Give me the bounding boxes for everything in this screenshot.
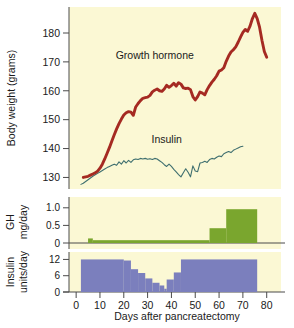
insulin-dose-bar-3 [138,273,145,292]
y-tick-label-150: 150 [42,113,60,125]
insulin-tick-label-12: 12 [49,254,61,265]
gh-dose-bar-0 [88,238,93,243]
gh-tick-label-0-5: 0.5 [46,220,60,231]
y-tick-label-170: 170 [42,56,60,68]
gh-tick-label-0: 0 [54,238,60,249]
insulin-dose-bar-10 [181,259,257,292]
insulin-tick-label-0: 0 [54,287,60,298]
y-tick-label-180: 180 [42,27,60,39]
insulin-tick-label-6: 6 [54,270,60,281]
insulin-dose-bar-1 [124,261,131,292]
y-tick-label-130: 130 [42,171,60,183]
insulin-dose-bar-5 [152,283,159,292]
chart-figure: 130140150160170180 Body weight (grams) G… [0,0,294,328]
x-tick-label-10: 10 [94,299,106,311]
annotation-insulin: Insulin [151,133,182,145]
insulin-axis-title-line2: units/day [17,250,29,293]
annotation-growth-hormone: Growth hormone [116,49,194,61]
x-axis-title: Days after pancreatectomy [114,310,240,322]
x-tick-label-0: 0 [73,299,79,311]
x-tick-label-80: 80 [261,299,273,311]
gh-dose-bar-3 [226,209,257,243]
gh-axis-title-line1: GH [4,214,16,230]
gh-axis-title-line2: mg/day [17,204,29,239]
insulin-axis-title-line1: Insulin [4,257,16,288]
body-weight-plot-background [69,7,281,189]
gh-dose-bar-1 [93,240,210,243]
insulin-dose-bar-9 [174,272,181,292]
y-tick-label-140: 140 [42,142,60,154]
insulin-dose-bar-4 [145,278,152,292]
insulin-dose-bar-8 [167,280,174,292]
gh-tick-label-1: 1.0 [46,202,60,213]
insulin-dose-bar-2 [131,269,138,292]
y-tick-label-160: 160 [42,85,60,97]
insulin-dose-bar-7 [164,289,166,292]
gh-dose-bar-2 [210,228,227,243]
insulin-dose-bar-0 [81,259,124,292]
insulin-dose-bar-6 [160,285,165,292]
y-axis-title-body-weight: Body weight (grams) [5,50,17,146]
